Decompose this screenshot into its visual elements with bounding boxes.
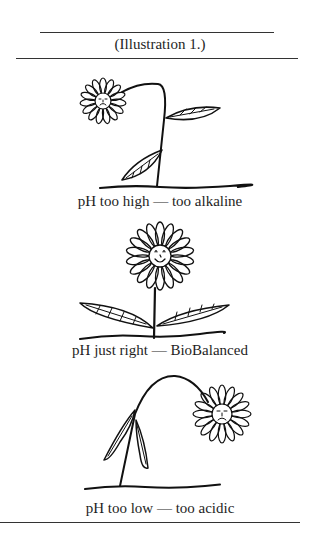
caption-alkaline: pH too high — too alkaline xyxy=(0,193,320,210)
happy-flower-head-icon xyxy=(126,222,195,290)
leaf-icon xyxy=(136,420,148,468)
leaf-icon xyxy=(122,150,162,180)
illustration-label: (Illustration 1.) xyxy=(0,36,320,53)
caption-acidic: pH too low — too acidic xyxy=(0,500,320,517)
flower-alkaline-illustration xyxy=(0,60,320,190)
sad-flower-head-icon xyxy=(80,78,126,124)
top-rule xyxy=(40,32,274,33)
flower-balanced-illustration xyxy=(0,218,320,340)
flower-acidic-illustration xyxy=(0,370,320,492)
header-bottom-rule xyxy=(16,58,298,59)
leaf-icon xyxy=(80,303,153,328)
leaf-icon xyxy=(157,304,229,326)
sad-flower-head-icon xyxy=(193,385,251,443)
caption-balanced: pH just right — BioBalanced xyxy=(0,342,320,359)
bottom-rule xyxy=(0,522,300,523)
leaf-icon xyxy=(166,107,220,120)
